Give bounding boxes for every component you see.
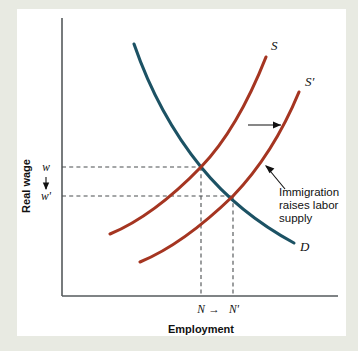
shift-arrow <box>248 122 281 129</box>
supply-demand-chart: S S′ D w w' N → N' Real wage Employment … <box>0 0 358 351</box>
demand-curve-label: D <box>299 239 310 254</box>
y-tick-label-w: w <box>42 161 50 173</box>
y-axis-title: Real wage <box>20 159 32 213</box>
annotation-line-2: raises labor <box>279 199 339 211</box>
annotation-text: Immigration raises labor supply <box>279 186 339 224</box>
annotation-line-3: supply <box>279 212 312 224</box>
y-tick-label-w-prime: w' <box>41 190 52 202</box>
wage-decline-arrow <box>43 177 49 190</box>
x-axis-title: Employment <box>168 323 234 335</box>
supply-curve-label: S <box>271 38 278 53</box>
figure-root: S S′ D w w' N → N' Real wage Employment … <box>0 0 358 351</box>
x-tick-arrow: → <box>208 303 220 315</box>
supply-shifted-curve-label: S′ <box>305 74 315 89</box>
x-tick-label-n: N <box>196 303 206 315</box>
annotation-line-1: Immigration <box>279 186 339 198</box>
x-tick-label-n-prime: N' <box>228 303 240 315</box>
